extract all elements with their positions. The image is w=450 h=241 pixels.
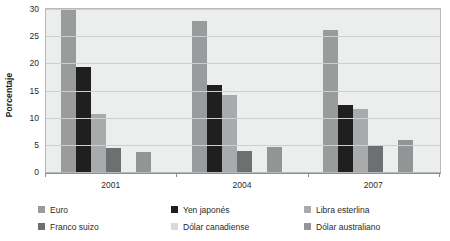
gridline	[46, 36, 440, 37]
legend-item[interactable]: Yen japonés	[171, 201, 304, 218]
y-axis-tick: 10	[30, 113, 39, 122]
y-axis-tick: 5	[34, 141, 39, 150]
x-axis-line	[45, 173, 441, 174]
bar	[76, 67, 91, 172]
legend-swatch-icon	[171, 206, 178, 213]
legend-label: Franco suizo	[50, 222, 99, 232]
x-axis-tick-mark	[45, 173, 46, 177]
legend-label: Yen japonés	[183, 205, 229, 215]
bar	[91, 114, 106, 172]
legend-label: Euro	[50, 205, 68, 215]
y-axis-tick: 20	[30, 59, 39, 68]
bar	[192, 21, 207, 172]
x-axis-tick: 2007	[364, 180, 383, 190]
y-axis-tick: 30	[30, 5, 39, 14]
gridline	[46, 145, 440, 146]
bar	[106, 148, 121, 172]
chart-legend: EuroFranco suizoYen japonésDólar canadie…	[38, 201, 438, 235]
bar	[368, 146, 383, 172]
bar	[338, 105, 353, 172]
y-axis-tick: 15	[30, 86, 39, 95]
x-axis-tick: 2004	[233, 180, 252, 190]
bar	[237, 151, 252, 172]
x-axis-tick: 2001	[101, 180, 120, 190]
legend-swatch-icon	[304, 206, 311, 213]
legend-label: Libra esterlina	[316, 205, 369, 215]
legend-item[interactable]: Dólar australiano	[304, 218, 437, 235]
legend-swatch-icon	[171, 223, 178, 230]
legend-item[interactable]: Libra esterlina	[304, 201, 437, 218]
bar	[222, 95, 237, 172]
gridline	[46, 9, 440, 10]
bar	[323, 30, 338, 172]
x-axis-tick-mark	[308, 173, 309, 177]
plot-area	[45, 8, 441, 173]
legend-label: Dólar canadiense	[183, 222, 249, 232]
bar	[267, 147, 282, 172]
gridline	[46, 118, 440, 119]
legend-item[interactable]: Franco suizo	[38, 218, 171, 235]
legend-swatch-icon	[304, 223, 311, 230]
y-axis-tick-labels: 051015202530	[16, 8, 42, 173]
gridline	[46, 63, 440, 64]
y-axis-tick: 25	[30, 32, 39, 41]
y-axis-title-label: Porcentaje	[4, 73, 14, 117]
legend-item[interactable]: Dólar canadiense	[171, 218, 304, 235]
y-axis-tick: 0	[34, 168, 39, 177]
bar	[136, 152, 151, 172]
legend-label: Dólar australiano	[316, 222, 380, 232]
x-axis-tick-mark	[439, 173, 440, 177]
x-axis-tick-mark	[176, 173, 177, 177]
legend-item[interactable]: Euro	[38, 201, 171, 218]
legend-swatch-icon	[38, 206, 45, 213]
legend-swatch-icon	[38, 223, 45, 230]
bar	[207, 85, 222, 172]
bar-chart: Porcentaje 051015202530 EuroFranco suizo…	[0, 0, 450, 241]
gridline	[46, 91, 440, 92]
